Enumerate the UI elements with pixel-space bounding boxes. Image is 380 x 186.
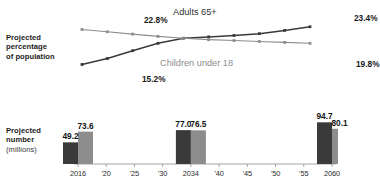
bar-2034-adults (176, 130, 191, 164)
line-marker (182, 37, 185, 40)
adults-start-value: 15.2% (142, 74, 166, 84)
line-marker (283, 29, 286, 32)
line-marker (106, 57, 109, 60)
bar-value-label: 49.2 (60, 131, 82, 141)
series-title-adults: Adults 65+ (173, 7, 217, 17)
axis-tick-label: 2034 (177, 169, 205, 178)
line-marker (157, 35, 160, 38)
line-marker (283, 41, 286, 44)
line-marker (157, 42, 160, 45)
line-marker (81, 28, 84, 31)
line-marker (106, 30, 109, 33)
axis-tick-label: '45 (233, 169, 261, 178)
line-marker (233, 39, 236, 42)
bar-2016-adults (63, 142, 78, 164)
bar-value-label: 76.5 (187, 119, 209, 129)
line-marker (81, 63, 84, 66)
children-end-value: 19.8% (356, 59, 380, 69)
line-marker (309, 25, 312, 28)
number-bar-chart: 2016'20'25'302034'40'45'50'55206049.273.… (60, 100, 338, 186)
line-marker (131, 49, 134, 52)
children-start-value: 22.8% (144, 15, 168, 25)
axis-tick-label: '40 (205, 169, 233, 178)
bar-value-label: 73.6 (75, 121, 97, 131)
series-title-children: Children under 18 (160, 58, 233, 68)
axis-tick-label: 2016 (64, 169, 92, 178)
adults-end-value: 23.4% (354, 13, 378, 23)
line-marker (258, 40, 261, 43)
line-marker (131, 33, 134, 36)
axis-tick-label: '55 (290, 169, 318, 178)
line-marker (309, 42, 312, 45)
axis-tick-label: '30 (149, 169, 177, 178)
percentage-line-chart: Adults 65+ Children under 18 22.8% 19.8%… (60, 2, 338, 92)
line-marker (207, 38, 210, 41)
line-marker (258, 32, 261, 35)
axis-tick-label: '25 (120, 169, 148, 178)
axis-tick-label: '50 (262, 169, 290, 178)
bar-2060-children (332, 129, 338, 164)
bar-2060-adults (317, 122, 332, 164)
axis-tick-label: 2060 (318, 169, 346, 178)
axis-tick-label: '20 (92, 169, 120, 178)
line-marker (207, 35, 210, 38)
bar-value-label: 80.1 (329, 118, 351, 128)
bar-2034-children (191, 130, 206, 164)
line-marker (233, 34, 236, 37)
